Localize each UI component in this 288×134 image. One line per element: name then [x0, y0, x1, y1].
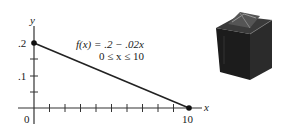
point-end — [186, 105, 192, 111]
point-start — [31, 40, 37, 46]
function-label: f(x) = .2 − .02x — [76, 38, 144, 50]
origin-label: 0 — [24, 114, 30, 125]
domain-label: 0 ≤ x ≤ 10 — [76, 50, 144, 62]
y-tick-label-2: .2 — [18, 38, 26, 49]
box-image — [210, 8, 276, 84]
equation-annotation: f(x) = .2 − .02x 0 ≤ x ≤ 10 — [76, 38, 144, 62]
y-tick-label-1: .1 — [18, 71, 26, 82]
y-axis-label: y — [30, 15, 35, 26]
x-tick-label-10: 10 — [182, 114, 193, 125]
x-axis-label: x — [204, 102, 209, 113]
